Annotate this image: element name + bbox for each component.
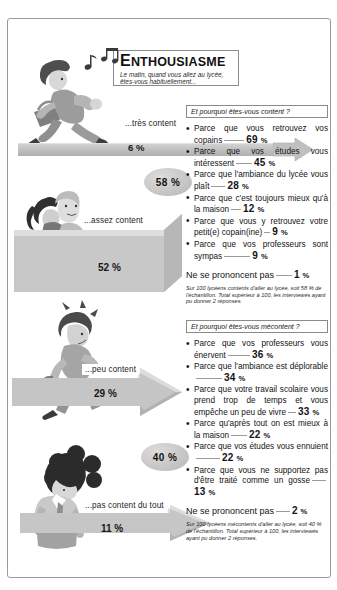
level-value-pas-content-du-tout: 11 % [101,523,123,534]
reason-list-mecontent: Parce que vos professeurs vous énervent3… [186,339,328,498]
level-label-text: ...peu content [85,365,136,374]
list-item: Parce que vos professeurs sont sympas9 % [186,240,328,262]
panel-question-content: Et pourquoi êtes-vous content ? [186,105,328,118]
panel-body-mecontent: Parce que vos professeurs vous énervent3… [186,339,328,541]
level-value-tres-content: 6 % [128,142,144,153]
group-total-value: 40 % [153,452,177,463]
list-item: Parce que votre travail scolaire vous pr… [186,385,328,418]
list-item: Parce que vos études vous ennuient22 % [186,442,328,464]
no-opinion-value: 1 % [294,269,309,280]
reason-value: 45 % [254,157,275,168]
no-opinion-label: Ne se prononcent pas [186,506,274,516]
no-opinion-content: Ne se prononcent pas1 % [186,269,328,280]
reason-text: Parce que vous y retrouvez votre petit(e… [194,217,328,238]
reason-text: Parce que vos études vous ennuient [194,442,328,451]
level-label-text: ...assez content [84,216,143,225]
panel-mecontent: Et pourquoi êtes-vous mécontent ? Parce … [186,320,328,541]
group-total-value: 58 % [156,177,180,188]
level-label-pas-content-du-tout: ...pas content du tout [82,500,167,511]
reason-value: 9 % [252,250,268,261]
panel-footnote-mecontent: Sur 100 lycéens mécontents d'aller au ly… [186,521,328,541]
reason-value: 22 % [249,429,270,440]
no-opinion-label: Ne se prononcent pas [186,270,274,280]
level-value-text: 6 % [128,142,144,153]
level-label-text: ...pas content du tout [85,501,164,510]
reason-text: Parce que l'ambiance du lycée vous plaît [194,170,328,191]
reason-value: 33 % [298,406,319,417]
panel-question-text: Et pourquoi êtes-vous content ? [191,108,290,115]
infographic-page: ENTHOUSIASME Le matin, quand vous allez … [0,0,337,590]
level-value-text: 29 % [94,388,117,399]
panel-question-mecontent: Et pourquoi êtes-vous mécontent ? [186,320,328,333]
level-label-text: ...très content [125,119,176,128]
panel-content: Et pourquoi êtes-vous content ? Parce qu… [186,105,328,305]
list-item: Parce que vous retrouvez vos copains69 % [186,124,328,146]
list-item: Parce qu'après tout on est mieux à la ma… [186,419,328,441]
list-item: Parce que vous ne supportez pas d'être t… [186,466,328,499]
list-item: Parce que vous y retrouvez votre petit(e… [186,217,328,239]
reason-value: 22 % [222,452,243,463]
panel-footnote-content: Sur 100 lycéens contents d'aller au lycé… [186,285,328,305]
music-notes-icon [84,48,119,71]
level-value-text: 11 % [101,523,123,534]
reason-text: Parce que vous ne supportez pas d'être t… [194,466,328,486]
reason-text: Parce que l'ambiance est déplorable [194,362,328,371]
panel-body-content: Parce que vous retrouvez vos copains69 %… [186,124,328,305]
list-item: Parce que vos professeurs vous énervent3… [186,339,328,361]
level-label-peu-content: ...peu content [82,364,139,375]
reason-value: 34 % [224,372,245,383]
reason-value: 36 % [252,349,273,360]
reason-value: 9 % [272,226,288,237]
level-value-peu-content: 29 % [94,388,117,399]
list-item: Parce que c'est toujours mieux qu'à la m… [186,194,328,216]
group-total-mecontents: 40 % [141,443,189,471]
list-item: Parce que vos études vous intéressent45 … [186,147,328,169]
reason-value: 12 % [243,203,264,214]
level-label-assez-content: ...assez content [81,215,146,226]
no-opinion-value: 2 % [292,505,307,516]
reason-value: 69 % [246,134,267,145]
no-opinion-mecontent: Ne se prononcent pas2 % [186,505,328,516]
list-item: Parce que l'ambiance du lycée vous plaît… [186,170,328,192]
reason-value: 13 % [194,486,215,497]
list-item: Parce que l'ambiance est déplorable34 % [186,362,328,384]
page-margin-top [0,0,337,18]
reason-list-content: Parce que vous retrouvez vos copains69 %… [186,124,328,262]
level-value-text: 52 % [98,262,121,273]
level-label-tres-content: ...très content [122,118,172,129]
reason-value: 28 % [227,180,248,191]
panel-question-text: Et pourquoi êtes-vous mécontent ? [191,323,300,330]
level-value-assez-content: 52 % [98,262,121,273]
group-total-contents: 58 % [144,168,192,196]
page-margin-bottom [0,576,337,590]
